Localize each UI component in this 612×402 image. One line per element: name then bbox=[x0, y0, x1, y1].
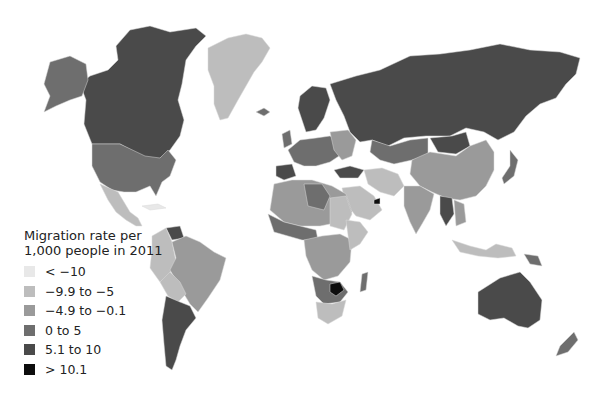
legend-item: 0 to 5 bbox=[24, 321, 194, 341]
legend-label: < −10 bbox=[45, 264, 86, 279]
region-iran bbox=[364, 168, 404, 196]
region-central-africa bbox=[304, 234, 352, 280]
region-spain bbox=[276, 164, 296, 180]
region-new-zealand bbox=[556, 332, 578, 356]
legend-title: Migration rate per 1,000 people in 2011 bbox=[24, 228, 194, 258]
region-alaska bbox=[44, 56, 88, 112]
legend-item: < −10 bbox=[24, 262, 194, 282]
legend-label: −9.9 to −5 bbox=[45, 284, 114, 299]
legend-item: 5.1 to 10 bbox=[24, 340, 194, 360]
legend-swatch bbox=[24, 364, 35, 375]
map-legend: Migration rate per 1,000 people in 2011 … bbox=[24, 228, 194, 379]
region-iceland bbox=[256, 108, 270, 116]
region-russia bbox=[330, 44, 580, 146]
region-east-africa bbox=[346, 220, 368, 250]
region-united-kingdom bbox=[282, 130, 292, 148]
region-scandinavia bbox=[298, 86, 330, 132]
legend-swatch bbox=[24, 325, 35, 336]
region-cuba bbox=[142, 204, 166, 210]
legend-swatch bbox=[24, 266, 35, 277]
legend-label: −4.9 to −0.1 bbox=[45, 303, 126, 318]
region-india bbox=[404, 186, 434, 234]
legend-item: −9.9 to −5 bbox=[24, 282, 194, 302]
region-myanmar bbox=[440, 196, 454, 226]
region-canada bbox=[80, 26, 206, 160]
region-madagascar bbox=[360, 272, 368, 292]
region-greenland bbox=[208, 34, 270, 120]
region-indochina bbox=[454, 200, 466, 226]
legend-item: −4.9 to −0.1 bbox=[24, 301, 194, 321]
legend-label: 0 to 5 bbox=[45, 323, 81, 338]
legend-title-line1: Migration rate per bbox=[24, 228, 194, 243]
legend-label: 5.1 to 10 bbox=[45, 342, 101, 357]
legend-swatch bbox=[24, 286, 35, 297]
region-japan bbox=[502, 150, 518, 184]
legend-item: > 10.1 bbox=[24, 360, 194, 380]
legend-label: > 10.1 bbox=[45, 362, 87, 377]
region-australia bbox=[478, 272, 542, 328]
legend-swatch bbox=[24, 305, 35, 316]
legend-title-line2: 1,000 people in 2011 bbox=[24, 243, 194, 258]
region-papua-new-guinea bbox=[524, 254, 542, 266]
region-indonesia bbox=[452, 240, 516, 258]
region-south-africa bbox=[316, 300, 346, 324]
region-turkey bbox=[334, 166, 364, 178]
legend-swatch bbox=[24, 344, 35, 355]
